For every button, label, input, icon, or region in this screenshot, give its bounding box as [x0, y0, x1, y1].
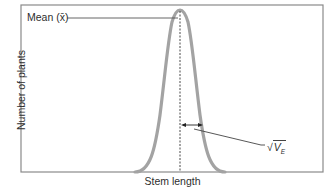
sd-variable: V — [274, 141, 281, 153]
arrowhead-left-icon — [181, 123, 186, 127]
y-axis-label: Number of plants — [15, 35, 27, 145]
bell-curve-chart — [0, 0, 327, 190]
x-axis-label: Stem length — [0, 175, 327, 187]
sd-subscript: E — [281, 148, 285, 155]
sqrt-symbol: √ — [267, 141, 273, 153]
sd-label: √VE — [267, 141, 286, 155]
mean-label: Mean (x̄) — [27, 11, 68, 23]
